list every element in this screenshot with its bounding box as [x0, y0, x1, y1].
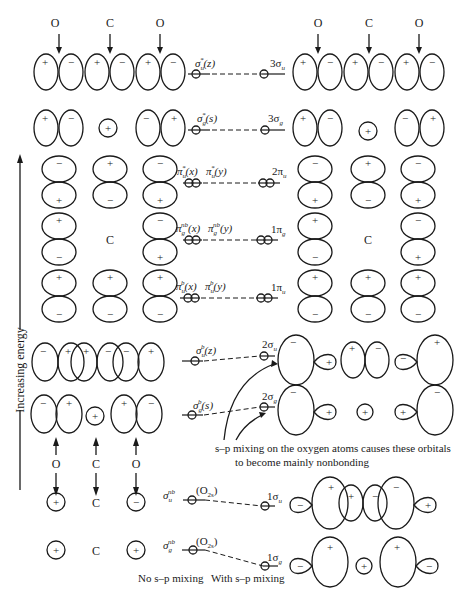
svg-text:+: + — [56, 271, 62, 283]
svg-text:−: − — [170, 56, 176, 68]
svg-text:−: − — [415, 308, 421, 320]
svg-text:πgnb(y): πgnb(y) — [208, 221, 233, 237]
svg-text:σgnb: σgnb — [163, 538, 175, 554]
atom-label-o: O — [314, 16, 323, 30]
svg-text:+: + — [434, 336, 440, 348]
svg-text:+: + — [105, 122, 111, 134]
svg-text:1πu: 1πu — [271, 281, 286, 296]
svg-text:−: − — [312, 308, 318, 320]
svg-text:+: + — [312, 271, 318, 283]
axis-label-increasing-energy: Increasing energy — [13, 327, 27, 412]
svg-text:−: − — [290, 386, 296, 398]
svg-text:−: − — [297, 560, 303, 572]
svg-text:+: + — [53, 544, 59, 556]
svg-text:−: − — [312, 251, 318, 263]
orbital-row-2su-right: − + + − − + — [278, 335, 453, 385]
svg-text:−: − — [327, 112, 333, 124]
svg-text:−: − — [123, 345, 129, 357]
svg-text:+: + — [362, 406, 368, 418]
svg-text:+: + — [300, 56, 306, 68]
svg-text:+: + — [83, 345, 89, 357]
svg-text:+: + — [133, 544, 139, 556]
orbital-row-1pu-right: + − + − + − — [298, 270, 435, 322]
svg-text:3σu: 3σu — [270, 57, 285, 72]
svg-text:+: + — [312, 214, 318, 226]
svg-text:+: + — [365, 271, 371, 283]
svg-text:+: + — [121, 397, 127, 409]
energy-level-3sg: σg*(s) 3σg — [188, 111, 285, 134]
atom-label-o: O — [156, 16, 165, 30]
bottom-atom-markers: O C O — [52, 437, 141, 496]
svg-text:1σg: 1σg — [267, 551, 282, 566]
curved-arrow-icon — [236, 415, 262, 440]
arrowhead-icon — [107, 47, 113, 54]
orbital-row-2sg-right: − + + + − — [278, 385, 453, 435]
orbital-row-2pu-right: − + + − − + — [298, 156, 435, 208]
orbital-row-1su-right: − + + − − + — [290, 477, 436, 529]
curved-arrow-icon — [224, 364, 274, 440]
svg-text:σunb: σunb — [163, 488, 175, 504]
svg-text:πu*(x): πu*(x) — [177, 164, 198, 180]
svg-text:−: − — [56, 308, 62, 320]
svg-text:+: + — [352, 56, 358, 68]
svg-text:+: + — [300, 112, 306, 124]
energy-level-1pu: πub(x) πub(y) 1πu — [176, 279, 286, 302]
svg-text:−: − — [157, 214, 163, 226]
svg-text:+: + — [42, 112, 48, 124]
svg-text:2πu: 2πu — [272, 165, 287, 180]
orbital-row-1pg-left: C + − − + — [42, 213, 177, 265]
svg-text:σu*(z): σu*(z) — [195, 56, 215, 72]
svg-text:−: − — [402, 112, 408, 124]
svg-text:−: − — [290, 336, 296, 348]
caption-no-sp-mixing: No s–p mixing — [138, 572, 204, 584]
annotation-line-2: to become mainly nonbonding — [235, 456, 370, 468]
svg-text:1πg: 1πg — [271, 223, 286, 238]
svg-text:+: + — [328, 481, 334, 493]
svg-text:σg*(s): σg*(s) — [197, 111, 217, 127]
svg-text:+: + — [394, 541, 400, 553]
svg-text:(O2s): (O2s) — [196, 535, 218, 550]
energy-level-1pg: πgnb(x) πgnb(y) 1πg — [176, 221, 286, 244]
svg-text:−: − — [375, 342, 381, 354]
orbital-row-1sg-left: C + + — [47, 541, 145, 559]
svg-text:−: − — [40, 345, 46, 357]
energy-level-2pu: πu*(x) πu*(y) 2πu — [177, 164, 287, 187]
down-arrow-icon — [93, 487, 99, 496]
svg-text:−: − — [68, 56, 74, 68]
svg-text:+: + — [326, 356, 332, 368]
svg-text:+: + — [56, 214, 62, 226]
svg-text:+: + — [361, 560, 367, 572]
energy-level-2su: σub(z) 2σu — [182, 338, 277, 365]
top-atom-markers-right: O C O — [314, 16, 424, 54]
svg-text:+: + — [53, 496, 59, 508]
svg-text:πub(x): πub(x) — [176, 279, 197, 295]
energy-axis: Increasing energy — [13, 154, 27, 490]
orbital-row-2su-left: − + + − − + — [32, 343, 164, 381]
co2-mo-diagram: O C O O C O + − + − + − σu*(z) — [0, 0, 466, 601]
svg-text:+: + — [365, 157, 371, 169]
arrowhead-icon — [56, 47, 62, 54]
svg-text:2σu: 2σu — [262, 338, 277, 353]
svg-text:−: − — [372, 490, 378, 502]
svg-text:+: + — [326, 406, 332, 418]
svg-text:+: + — [66, 397, 72, 409]
orbital-row-3su-right: + − + − + − — [293, 54, 444, 90]
svg-text:+: + — [327, 541, 333, 553]
svg-text:+: + — [415, 271, 421, 283]
svg-text:+: + — [348, 490, 354, 502]
svg-text:+: + — [157, 271, 163, 283]
orbital-row-1su-left: C + − — [47, 493, 145, 511]
down-arrow-icon — [53, 487, 59, 496]
svg-text:+: + — [42, 56, 48, 68]
energy-level-3su: σu*(z) 3σu — [188, 56, 285, 78]
arrowhead-icon — [157, 47, 163, 54]
svg-text:+: + — [425, 499, 431, 511]
svg-text:−: − — [56, 157, 62, 169]
svg-text:−: − — [148, 397, 154, 409]
svg-text:−: − — [365, 194, 371, 206]
svg-text:+: + — [56, 194, 62, 206]
atom-label-o: O — [132, 457, 141, 471]
svg-text:πu*(y): πu*(y) — [206, 164, 227, 180]
svg-text:1σu: 1σu — [267, 490, 282, 505]
svg-text:−: − — [297, 499, 303, 511]
